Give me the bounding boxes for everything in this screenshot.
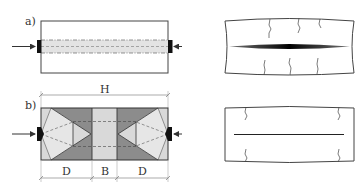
plate-icon xyxy=(37,40,42,53)
dimension-d-left: D xyxy=(62,165,71,178)
crack-pattern-b xyxy=(225,107,354,163)
dimension-b: B xyxy=(101,165,109,178)
panel-a-label: a) xyxy=(25,15,36,28)
dimension-h-label: H xyxy=(100,83,110,96)
zone-b xyxy=(92,108,117,160)
crack-pattern-a xyxy=(225,18,354,75)
diagram-figure: a) b) H xyxy=(0,0,362,186)
panel-b-label: b) xyxy=(25,99,36,112)
panel-b-specimen: b) H xyxy=(12,83,182,182)
plate-icon xyxy=(168,40,173,53)
panel-a-specimen: a) xyxy=(12,15,182,73)
dimension-d-right: D xyxy=(138,165,147,178)
